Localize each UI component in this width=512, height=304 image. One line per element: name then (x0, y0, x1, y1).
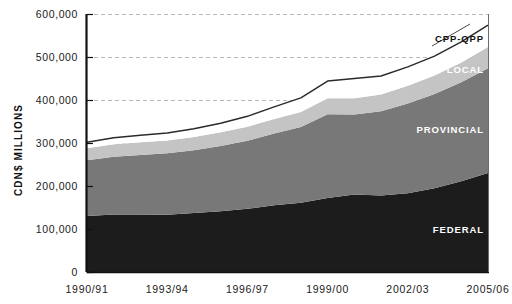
series-label-cpp-qpp: CPP-QPP (435, 33, 484, 44)
y-tick-label: 500,000 (36, 51, 78, 63)
series-label-federal: FEDERAL (433, 224, 484, 235)
y-axis-title-group: CDN$ MILLIONS (13, 104, 24, 196)
y-tick-label: 600,000 (36, 8, 78, 20)
y-tick-label: 0 (72, 266, 78, 278)
y-axis-title: CDN$ MILLIONS (13, 104, 24, 196)
x-tick-label: 1993/94 (146, 283, 189, 295)
series-label-local: LOCAL (447, 64, 484, 75)
y-tick-label: 400,000 (36, 94, 78, 106)
chart-canvas: 600,000500,000400,000300,000200,000100,0… (0, 0, 512, 304)
x-tick-label: 1999/00 (306, 283, 349, 295)
series-label-provincial: PROVINCIAL (416, 124, 484, 135)
x-tick-label: 2002/03 (386, 283, 429, 295)
revenue-area-chart: 600,000500,000400,000300,000200,000100,0… (0, 0, 512, 304)
y-tick-label: 100,000 (36, 223, 78, 235)
y-tick-label: 300,000 (36, 137, 78, 149)
x-tick-label: 2005/06 (467, 283, 510, 295)
x-tick-label: 1996/97 (226, 283, 269, 295)
y-tick-label: 200,000 (36, 180, 78, 192)
x-tick-label: 1990/91 (66, 283, 109, 295)
